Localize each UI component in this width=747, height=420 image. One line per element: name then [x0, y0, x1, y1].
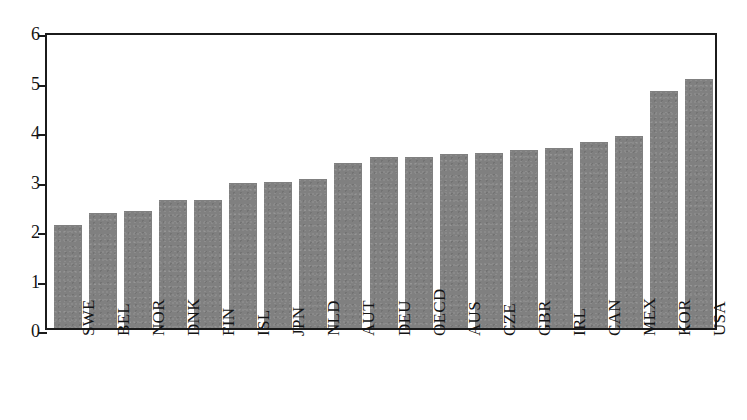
x-tick-label-text: GBR	[531, 300, 559, 336]
x-tick-label-text: DNK	[180, 298, 208, 336]
y-tick-label: 4	[31, 122, 40, 144]
bar-kor	[650, 91, 678, 328]
x-tick-label-text: ISL	[250, 310, 278, 336]
bar-isl	[229, 183, 257, 328]
x-tick-label-text: CZE	[496, 303, 524, 336]
x-tick-label-text: FIN	[215, 308, 243, 336]
bars-layer	[47, 35, 715, 328]
x-tick-label-text: AUT	[355, 300, 383, 336]
x-tick-label-text: CAN	[601, 299, 629, 336]
x-tick-label-text: DEU	[391, 300, 419, 336]
x-tick-label-text: NLD	[320, 300, 348, 336]
y-tick-label: 0	[31, 320, 40, 342]
x-tick-label-text: JPN	[285, 307, 313, 336]
x-tick-label-text: BEL	[110, 303, 138, 336]
y-tick-label: 5	[31, 73, 40, 95]
bar-usa	[685, 79, 713, 328]
plot-area: 0123456	[45, 33, 717, 330]
x-tick-label-text: USA	[706, 301, 734, 336]
y-tick-label: 6	[31, 23, 40, 45]
bar-chart: 0123456 SWEBELNORDNKFINISLJPNNLDAUTDEUOE…	[0, 0, 747, 420]
x-tick-label-text: KOR	[671, 299, 699, 336]
x-tick-label-text: OECD	[426, 289, 454, 336]
y-tick-label: 2	[31, 221, 40, 243]
x-tick-label-text: NOR	[145, 299, 173, 336]
y-tick-label: 3	[31, 172, 40, 194]
y-tick-label: 1	[31, 271, 40, 293]
x-tick-label-text: AUS	[461, 301, 489, 336]
x-tick-label-text: SWE	[75, 299, 103, 336]
x-tick-label-text: MEX	[636, 297, 664, 336]
x-tick-label-text: IRL	[566, 308, 594, 336]
